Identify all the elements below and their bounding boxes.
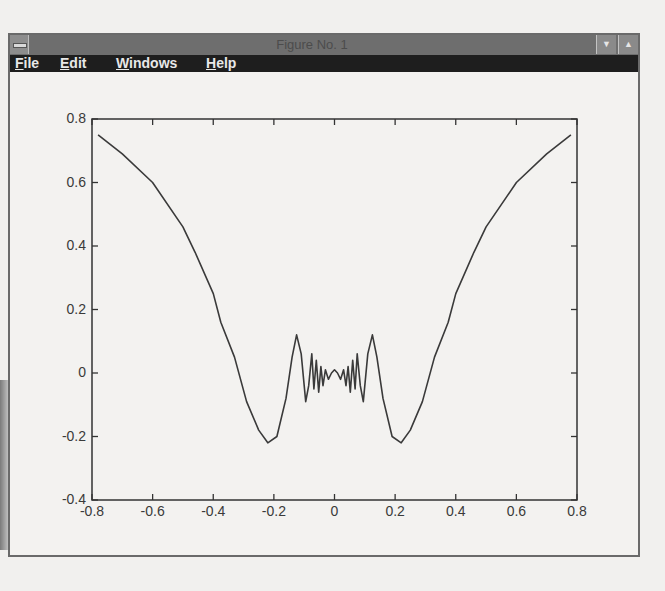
x-tick-label: 0.4 <box>436 503 476 519</box>
x-tick-label: 0 <box>315 503 355 519</box>
data-line <box>98 135 571 443</box>
y-tick-label: 0.4 <box>46 237 86 253</box>
x-tick-label: 0.6 <box>496 503 536 519</box>
y-tick-label: 0.6 <box>46 174 86 190</box>
x-tick-label: 0.2 <box>375 503 415 519</box>
axis-ticks <box>92 119 577 500</box>
x-tick-label: -0.2 <box>254 503 294 519</box>
y-tick-label: 0.8 <box>46 110 86 126</box>
y-tick-label: 0 <box>46 364 86 380</box>
y-tick-label: 0.2 <box>46 301 86 317</box>
x-tick-label: 0.8 <box>557 503 597 519</box>
x-tick-label: -0.6 <box>133 503 173 519</box>
y-tick-label: -0.4 <box>46 491 86 507</box>
x-tick-label: -0.4 <box>193 503 233 519</box>
axes-frame <box>92 119 577 500</box>
y-tick-label: -0.2 <box>46 428 86 444</box>
